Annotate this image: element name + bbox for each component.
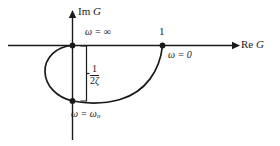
nyquist-locus: [45, 46, 163, 103]
peak-magnitude-bracket: [81, 46, 90, 101]
peak-magnitude-denominator: 2ζ: [90, 76, 99, 87]
unit-tick-label: 1: [159, 26, 165, 37]
peak-magnitude-denominator-symbol: ζ: [95, 75, 99, 86]
real-axis-arrowhead: [232, 42, 240, 49]
peak-bracket-path: [81, 46, 87, 101]
imaginary-axis: [69, 10, 76, 140]
real-axis: [8, 42, 240, 49]
real-axis-label-prefix: Re: [241, 38, 253, 50]
real-axis-label: Re G: [241, 39, 264, 50]
omega-natural-label-subscript: n: [97, 112, 100, 119]
plot-canvas: [0, 0, 280, 146]
peak-magnitude-label: 1 2ζ: [90, 64, 99, 86]
nyquist-locus-path: [45, 46, 163, 103]
omega-zero-label: ω = 0: [168, 50, 192, 60]
marker-omega-infinity: [70, 43, 76, 49]
real-axis-label-symbol: G: [256, 38, 264, 50]
marker-omega-zero: [160, 43, 166, 49]
imaginary-axis-label: Im G: [78, 6, 101, 17]
imaginary-axis-label-symbol: G: [93, 5, 101, 17]
imaginary-axis-label-prefix: Im: [78, 5, 90, 17]
omega-natural-label: ω = ωn: [71, 109, 100, 120]
omega-infinity-label: ω = ∞: [85, 27, 111, 37]
marker-omega-natural: [70, 98, 76, 104]
imaginary-axis-arrowhead: [69, 10, 76, 18]
nyquist-plot-figure: Im G Re G ω = ∞ 1 ω = 0 ω = ωn 1 2ζ: [0, 0, 280, 146]
omega-natural-label-prefix: ω = ω: [71, 108, 97, 119]
